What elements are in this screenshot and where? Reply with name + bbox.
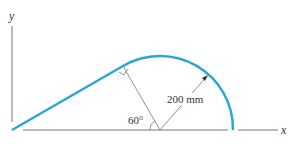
radius-arrowhead [202, 75, 208, 81]
y-axis-label: y [8, 9, 15, 23]
angle-label: 60° [128, 114, 143, 126]
radius-label: 200 mm [167, 93, 204, 105]
x-axis-label: x [280, 123, 287, 137]
angle-arc [150, 121, 155, 130]
diagram: y x 60° 200 mm [0, 0, 295, 144]
